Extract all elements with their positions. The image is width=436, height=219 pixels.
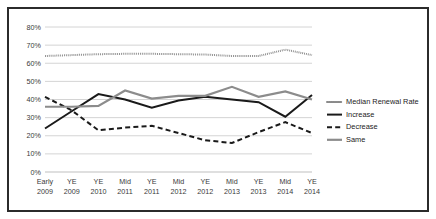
legend-label-increase: Increase: [346, 110, 374, 119]
x-tick-label: 2011: [144, 187, 159, 196]
y-tick-label: 80%: [27, 23, 42, 32]
y-tick-label: 50%: [27, 77, 42, 86]
line-chart-svg: 0%10%20%30%40%50%60%70%80% Early2009YE20…: [9, 9, 427, 210]
legend-label-decrease: Decrease: [346, 122, 378, 131]
x-tick-label: YE: [200, 177, 210, 186]
plot-area-wrapper: 0%10%20%30%40%50%60%70%80% Early2009YE20…: [9, 9, 427, 210]
x-tick-label: 2014: [277, 187, 293, 196]
x-tick-label: 2013: [251, 187, 267, 196]
x-tick-label: 2009: [64, 187, 80, 196]
x-tick-label: Early: [37, 177, 54, 186]
x-tick-label: Mid: [119, 177, 131, 186]
x-tick-label: YE: [67, 177, 77, 186]
chart-figure: 0%10%20%30%40%50%60%70%80% Early2009YE20…: [0, 0, 436, 219]
x-tick-label: 2009: [37, 187, 53, 196]
y-axis-tick-labels: 0%10%20%30%40%50%60%70%80%: [27, 23, 42, 177]
legend-label-median-renewal-rate: Median Renewal Rate: [346, 97, 419, 106]
y-tick-label: 10%: [27, 149, 42, 158]
y-tick-label: 0%: [31, 168, 42, 177]
x-tick-label: 2012: [171, 187, 187, 196]
x-tick-label: YE: [307, 177, 317, 186]
y-tick-label: 30%: [27, 113, 42, 122]
y-tick-label: 70%: [27, 41, 42, 50]
x-tick-label: Mid: [226, 177, 238, 186]
x-tick-label: YE: [147, 177, 157, 186]
x-tick-label: 2014: [304, 187, 320, 196]
y-tick-label: 40%: [27, 95, 42, 104]
chart-border-frame: 0%10%20%30%40%50%60%70%80% Early2009YE20…: [7, 7, 429, 212]
x-tick-label: 2011: [117, 187, 132, 196]
x-tick-label: YE: [254, 177, 264, 186]
x-axis-tick-labels: Early2009YE2009YE2010Mid2011YE2011Mid201…: [37, 177, 320, 196]
x-tick-label: 2010: [90, 187, 106, 196]
chart-legend: Median Renewal RateIncreaseDecreaseSame: [327, 97, 419, 144]
x-tick-label: Mid: [173, 177, 185, 186]
series-line-median-renewal-rate: [45, 50, 312, 56]
y-tick-label: 60%: [27, 59, 42, 68]
x-tick-label: 2013: [224, 187, 240, 196]
x-tick-label: YE: [94, 177, 104, 186]
y-tick-label: 20%: [27, 131, 42, 140]
legend-label-same: Same: [346, 135, 365, 144]
x-tick-label: Mid: [280, 177, 292, 186]
x-tick-label: 2012: [197, 187, 213, 196]
